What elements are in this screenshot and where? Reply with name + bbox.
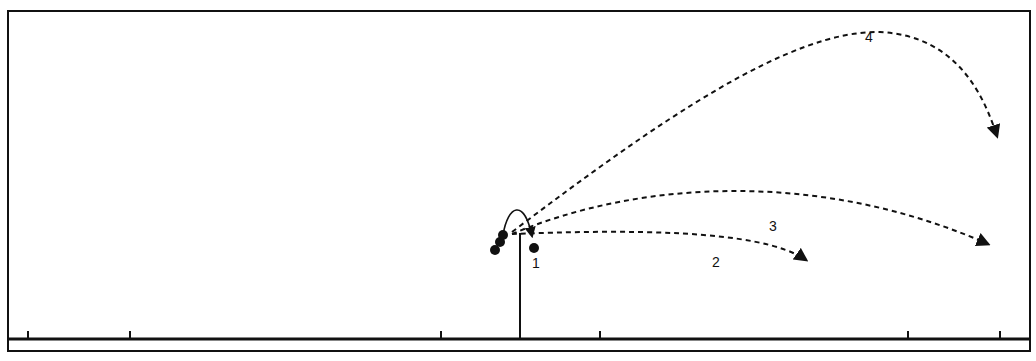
trajectory-2-label: 2 xyxy=(712,254,720,270)
trajectories xyxy=(503,32,997,260)
trajectory-1-label: 1 xyxy=(532,255,540,271)
trajectory-3-path xyxy=(512,191,988,244)
trajectory-2-path xyxy=(512,232,806,260)
ball-icon xyxy=(529,243,539,253)
trajectory-1-path xyxy=(503,210,532,236)
trajectory-diagram: 1234 xyxy=(0,0,1036,361)
ball-icon xyxy=(498,230,508,240)
trajectory-3-label: 3 xyxy=(769,218,777,234)
trajectory-4-label: 4 xyxy=(865,29,873,45)
trajectory-4-path xyxy=(512,32,997,232)
